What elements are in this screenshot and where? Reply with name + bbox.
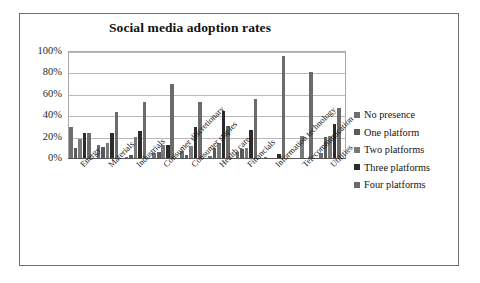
bar-group [263,51,291,158]
legend-item-label: Two platforms [364,144,424,155]
bar [87,133,91,158]
y-axis: 0%20%40%60%80%100% [20,51,65,158]
bar [83,133,87,158]
bar [138,131,142,158]
bar [333,124,337,158]
legend-item-label: No presence [364,109,415,120]
bar [115,112,119,158]
legend-swatch-icon [354,182,360,188]
y-axis-tick-label: 40% [43,109,62,120]
bar-group [207,51,235,158]
bar [213,148,217,158]
bar [134,137,138,158]
bar [282,56,286,158]
bar [222,111,226,158]
y-axis-tick-label: 80% [43,67,62,78]
bar [129,155,133,158]
bar [249,130,253,158]
bar [166,145,170,158]
bar [264,157,268,158]
bar [208,156,212,158]
y-axis-tick-label: 20% [43,131,62,142]
bar [101,147,105,158]
bar-group [124,51,152,158]
bar [180,151,184,158]
bar [97,145,101,158]
y-axis-tick-label: 100% [38,45,63,56]
x-axis-line [68,158,346,159]
bar [152,153,156,158]
chart-container: Social media adoption rates 0%20%40%60%8… [19,13,459,266]
bar [217,143,221,158]
bar [337,108,341,158]
bar [125,157,129,158]
bar [143,102,147,158]
legend-swatch-icon [354,164,360,170]
y-axis-tick-label: 60% [43,88,62,99]
bar [189,146,193,158]
legend-swatch-icon [354,147,360,153]
bar [236,152,240,158]
chart-legend: No presenceOne platformTwo platformsThre… [354,106,458,194]
bar-group [235,51,263,158]
chart-title: Social media adoption rates [20,20,360,36]
legend-item[interactable]: Four platforms [354,176,458,194]
bar-group [179,51,207,158]
legend-item[interactable]: One platform [354,124,458,142]
bar [254,99,258,158]
bar-group [151,51,179,158]
legend-item-label: Three platforms [364,162,430,173]
legend-item[interactable]: Three platforms [354,159,458,177]
legend-item-label: One platform [364,127,419,138]
bar [106,143,110,158]
bar-group [290,51,318,158]
legend-item[interactable]: No presence [354,106,458,124]
bar [240,149,244,158]
bar [185,155,189,158]
bar [69,127,73,158]
bar [74,148,78,158]
bar [170,84,174,158]
bar-group [318,51,346,158]
bar-group [96,51,124,158]
legend-item-label: Four platforms [364,179,426,190]
legend-swatch-icon [354,129,360,135]
bar [110,133,114,158]
bar [157,152,161,158]
legend-item[interactable]: Two platforms [354,141,458,159]
bar [245,148,249,158]
bar-group [68,51,96,158]
bars-layer [68,51,346,158]
bar [309,72,313,158]
bar [194,127,198,158]
bar [277,154,281,158]
bar [324,137,328,158]
y-axis-tick-label: 0% [48,152,62,163]
bar [226,126,230,158]
legend-swatch-icon [354,112,360,118]
bar [198,102,202,158]
bar [300,136,304,158]
bar [328,136,332,158]
bar [78,139,82,158]
bar [161,145,165,158]
bar [319,153,323,158]
